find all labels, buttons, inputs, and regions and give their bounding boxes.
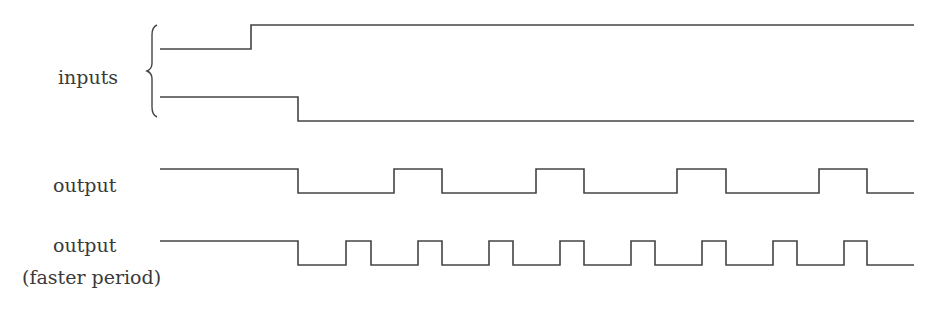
input-1-waveform [160,25,914,49]
brace-icon [147,25,157,117]
timing-diagram [0,0,952,310]
output-waveform [160,169,914,193]
waveforms [160,25,914,265]
output-faster-period-waveform [160,241,914,265]
input-2-waveform [160,97,914,121]
